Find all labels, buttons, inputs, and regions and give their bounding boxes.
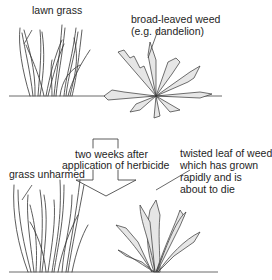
lawn-grass-top <box>19 25 90 96</box>
dandelion-twisted-bottom <box>116 200 200 272</box>
label-twisted-leaf-3: rapidly and is <box>180 171 242 183</box>
grass-bottom <box>14 180 88 272</box>
label-lawn-grass: lawn grass <box>32 4 82 16</box>
diagram-artwork <box>0 0 272 280</box>
label-twisted-leaf-4: about to die <box>180 183 235 195</box>
label-broad-leaved-weed: broad-leaved weed <box>131 13 220 25</box>
label-twisted-leaf-1: twisted leaf of weed <box>180 147 272 159</box>
label-dandelion-example: (e.g. dandelion) <box>131 25 204 37</box>
label-twisted-leaf-2: which has grown <box>180 159 258 171</box>
dandelion-top <box>104 42 212 118</box>
label-grass-unharmed: grass unharmed <box>9 168 85 180</box>
